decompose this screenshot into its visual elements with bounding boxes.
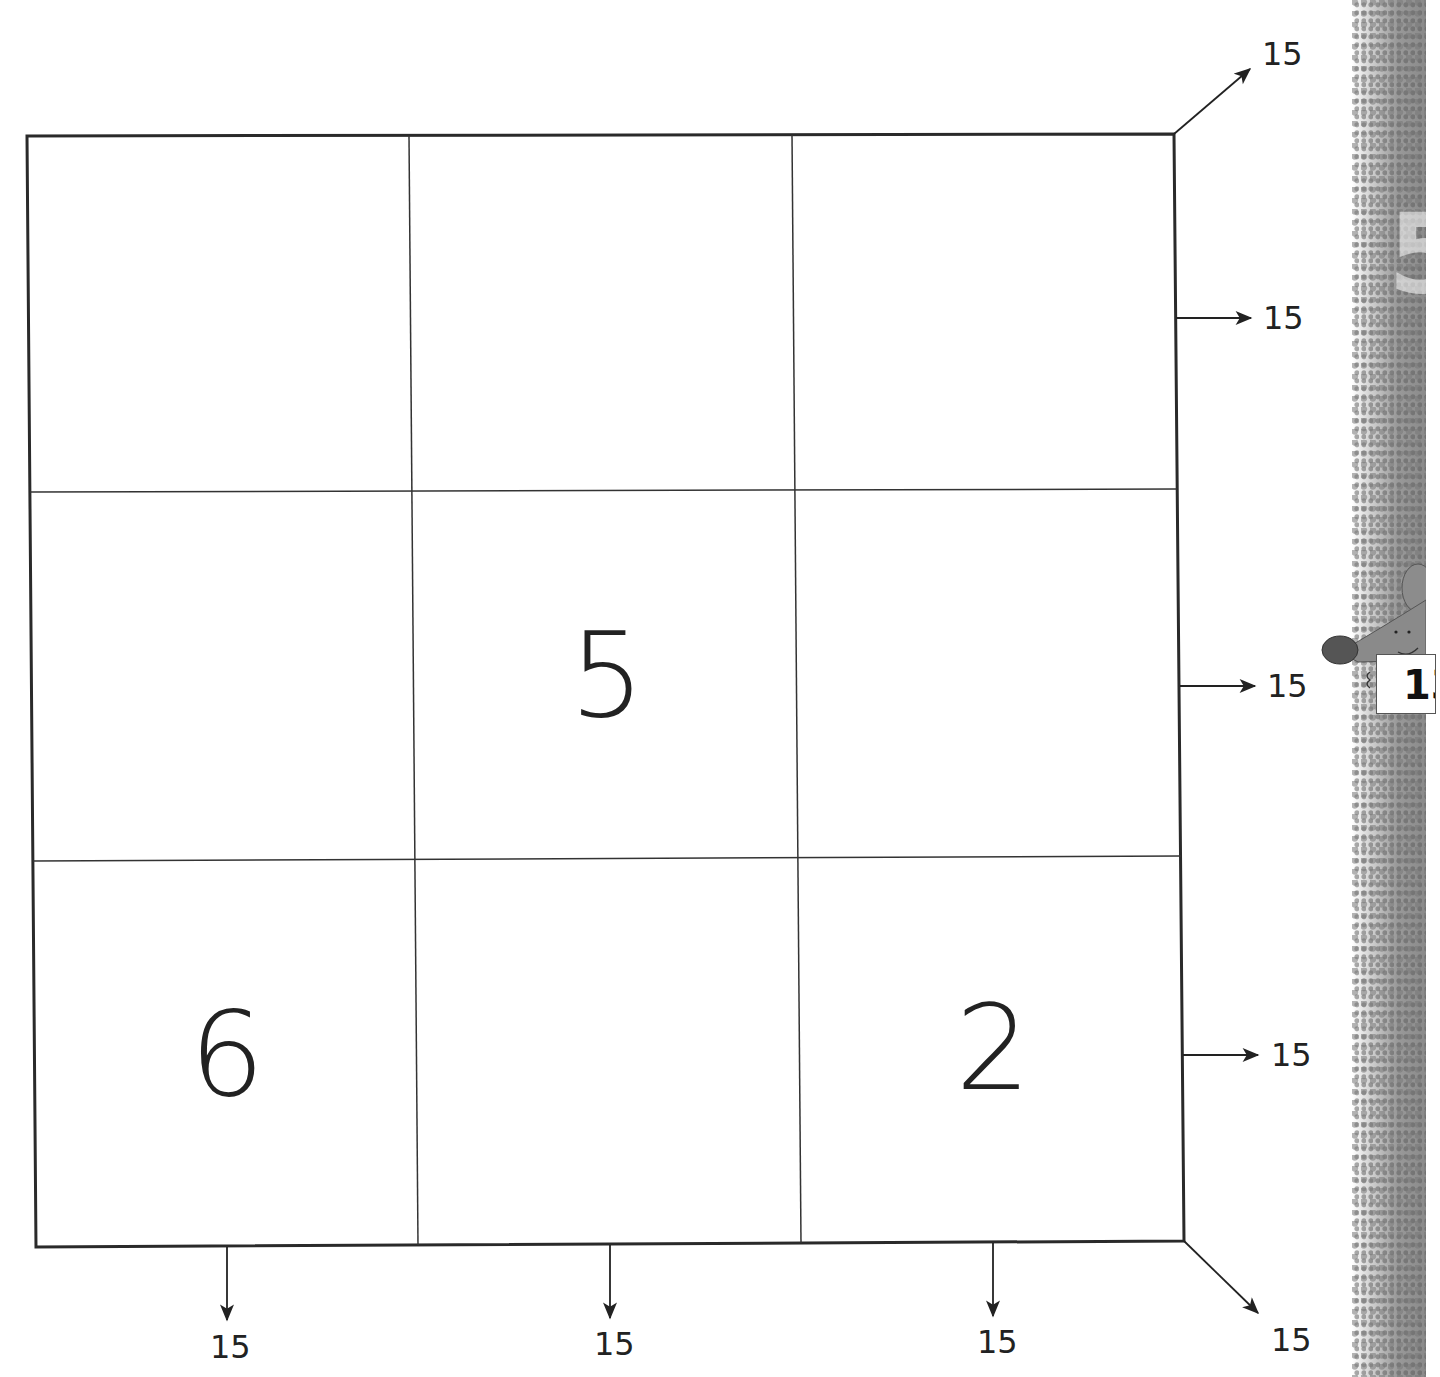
diagonal-arrow-down-right-icon <box>1184 1241 1258 1313</box>
diagonal-arrow-up-right-icon <box>1174 69 1250 134</box>
cell-r1-c1[interactable] <box>30 138 410 490</box>
diagonal-sum-down-right: 15 <box>1271 1324 1312 1356</box>
column-2-sum: 15 <box>594 1328 635 1360</box>
mouse-sign: 13 <box>1376 654 1436 714</box>
mouse-mascot-icon: 13 <box>1318 560 1426 750</box>
row-2-sum: 15 <box>1267 670 1308 702</box>
cell-r3-c3[interactable]: 2 <box>802 858 1182 1238</box>
cell-r1-c3[interactable] <box>795 136 1175 488</box>
cell-r1-c2[interactable] <box>412 137 792 489</box>
cell-r3-c1[interactable]: 6 <box>36 864 416 1244</box>
row-1-sum: 15 <box>1263 302 1304 334</box>
cell-r2-c1[interactable] <box>32 494 412 859</box>
column-1-sum: 15 <box>210 1331 251 1363</box>
cell-r3-c2[interactable] <box>418 862 800 1242</box>
cell-r2-c2[interactable]: 5 <box>414 492 798 857</box>
diagonal-sum-up-right: 15 <box>1262 38 1303 70</box>
faint-digit-watermark: 5 <box>1388 190 1440 318</box>
row-3-sum: 15 <box>1271 1039 1312 1071</box>
cell-r2-c3[interactable] <box>798 490 1178 855</box>
column-3-sum: 15 <box>977 1326 1018 1358</box>
